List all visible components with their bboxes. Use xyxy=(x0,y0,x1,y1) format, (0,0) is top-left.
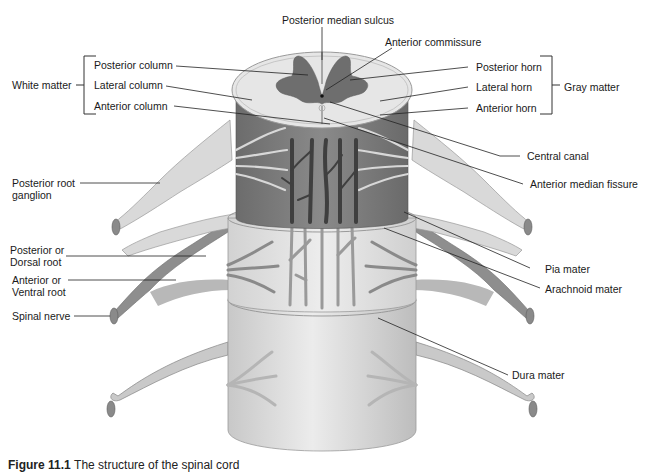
label-posterior-horn: Posterior horn xyxy=(476,61,542,73)
label-posterior-root-ganglion-line2: ganglion xyxy=(12,189,52,201)
label-posterior-column: Posterior column xyxy=(94,59,173,71)
label-dura-mater: Dura mater xyxy=(512,369,565,381)
label-central-canal: Central canal xyxy=(527,150,589,162)
group-white-matter: White matter xyxy=(12,79,72,91)
group-gray-matter: Gray matter xyxy=(564,81,619,93)
label-lateral-horn: Lateral horn xyxy=(476,81,532,93)
cord-cross-section xyxy=(232,52,412,128)
label-posterior-dorsal-root-line1: Posterior or xyxy=(10,244,64,256)
label-posterior-dorsal-root-line2: Dorsal root xyxy=(10,256,61,268)
label-arachnoid-mater: Arachnoid mater xyxy=(545,283,622,295)
label-anterior-commissure: Anterior commissure xyxy=(385,36,481,48)
label-anterior-column: Anterior column xyxy=(94,100,168,112)
label-pia-mater: Pia mater xyxy=(545,263,590,275)
label-posterior-median-sulcus: Posterior median sulcus xyxy=(282,14,394,26)
label-anterior-ventral-root-line2: Ventral root xyxy=(12,286,66,298)
label-spinal-nerve: Spinal nerve xyxy=(12,310,70,322)
label-posterior-root-ganglion-line1: Posterior root xyxy=(12,177,75,189)
figure-caption: Figure 11.1 The structure of the spinal … xyxy=(8,458,239,472)
label-posterior-dorsal-root: Posterior or Dorsal root xyxy=(10,244,64,268)
figure-number: Figure 11.1 xyxy=(8,458,71,472)
label-posterior-root-ganglion: Posterior root ganglion xyxy=(12,177,75,201)
label-anterior-median-fissure: Anterior median fissure xyxy=(530,178,638,190)
label-anterior-ventral-root: Anterior or Ventral root xyxy=(12,274,66,298)
figure-caption-text: The structure of the spinal cord xyxy=(74,458,239,472)
label-anterior-horn: Anterior horn xyxy=(476,102,537,114)
label-anterior-ventral-root-line1: Anterior or xyxy=(12,274,61,286)
label-lateral-column: Lateral column xyxy=(94,79,163,91)
